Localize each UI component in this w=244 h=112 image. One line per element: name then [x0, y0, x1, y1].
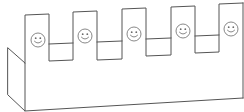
box-left-side-face	[8, 48, 25, 111]
box-diagram	[0, 0, 244, 112]
smiley-face-icon	[31, 33, 45, 47]
smiley-left-eye	[228, 26, 230, 28]
smiley-left-eye	[131, 31, 133, 33]
smiley-outline	[224, 22, 238, 36]
smiley-left-eye	[180, 28, 182, 30]
smiley-right-eye	[184, 28, 186, 30]
smiley-outline	[31, 33, 45, 47]
smiley-right-eye	[86, 33, 88, 35]
smiley-right-eye	[135, 31, 137, 33]
smiley-face-icon	[224, 22, 238, 36]
smiley-left-eye	[35, 37, 37, 39]
smiley-outline	[127, 27, 141, 41]
smiley-left-eye	[82, 33, 84, 35]
box-front-bottom-edge	[25, 98, 243, 111]
smiley-face-icon	[78, 29, 92, 43]
smiley-face-icon	[176, 24, 190, 38]
smiley-face-icon	[127, 27, 141, 41]
gap-back-line-4	[195, 35, 219, 36]
gap-back-line-3	[146, 38, 171, 39]
smiley-right-eye	[232, 26, 234, 28]
gap-back-line-2	[97, 41, 122, 42]
smiley-outline	[176, 24, 190, 38]
smiley-outline	[78, 29, 92, 43]
smiley-right-eye	[39, 37, 41, 39]
gap-back-line-1	[49, 43, 73, 44]
